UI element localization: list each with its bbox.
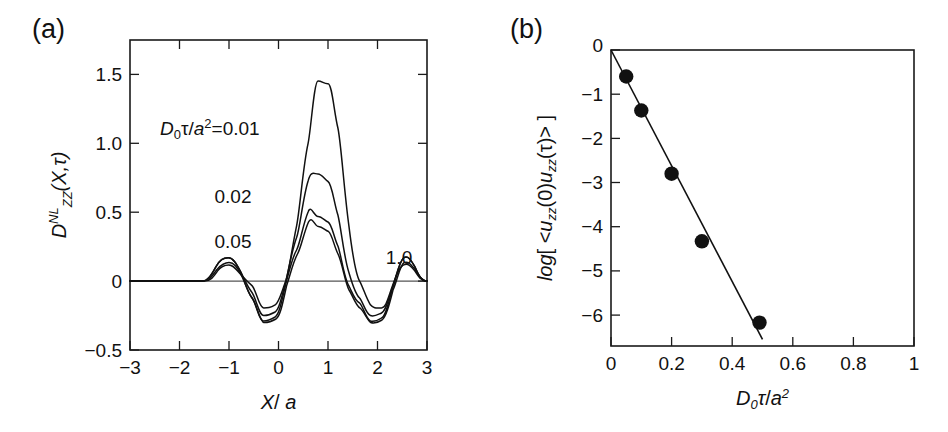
panel-a-xticklabel-1: −2	[169, 357, 191, 378]
panel-b: (b)	[474, 0, 948, 432]
panel-a-yticklabel-0: −0.5	[84, 340, 122, 361]
panel-a-xticklabel-0: −3	[119, 357, 141, 378]
panel-a-xticklabel-6: 3	[422, 357, 433, 378]
panel-b-xticklabel-5: 1	[909, 353, 920, 374]
panel-b-yaxis-title: log[ <uzz(0)uzz(τ)> ]	[534, 115, 559, 281]
panel-a-legend-0_01: D0τ/a2=0.01	[160, 116, 260, 142]
panel-a-xticklabel-2: −1	[218, 357, 240, 378]
panel-a-xticks	[130, 341, 427, 350]
panel-b-yticklabel-5: −5	[581, 260, 603, 281]
data-point	[634, 103, 648, 117]
panel-b-xticklabel-4: 0.8	[840, 353, 866, 374]
panel-b-label: (b)	[510, 14, 543, 45]
panel-a-yticks-right	[418, 74, 427, 281]
panel-a-yticklabel-2: 0.5	[96, 202, 122, 223]
panel-b-yticklabel-2: −2	[581, 128, 603, 149]
panel-b-yticklabel-1: −1	[581, 84, 603, 105]
panel-a-frame	[130, 40, 427, 350]
panel-a-curve-0_01	[130, 81, 427, 308]
panel-a-yticklabel-3: 1.0	[96, 133, 122, 154]
data-point	[752, 315, 766, 329]
panel-a-yticklabel-1: 0	[111, 271, 122, 292]
panel-a-yticks	[130, 74, 139, 350]
panel-a-xticklabel-3: 0	[273, 357, 284, 378]
panel-a-yticklabel-4: 1.5	[96, 64, 122, 85]
panel-b-yticklabel-4: −4	[581, 216, 603, 237]
panel-b-xticklabel-2: 0.4	[719, 353, 746, 374]
panel-b-frame	[611, 50, 914, 346]
panel-b-plot: 0 0.2 0.4 0.6 0.8 1 0 −1 −2 −3 −4 −5 −6	[474, 0, 948, 432]
panel-a-xaxis-title: X/ a	[260, 391, 297, 413]
panel-a-curves	[130, 81, 427, 323]
data-point	[619, 69, 633, 83]
panel-a-curve-0_05	[130, 209, 427, 321]
panel-a-xticks-top	[180, 40, 378, 49]
panel-a: (a)	[0, 0, 474, 432]
panel-a-legend-0_05: 0.05	[215, 231, 252, 252]
panel-b-yticks	[611, 50, 620, 315]
panel-a-curve-0_02	[130, 173, 427, 316]
panel-b-xticklabel-0: 0	[606, 353, 617, 374]
panel-b-yticklabel-0: 0	[592, 35, 603, 56]
panel-a-xticklabel-5: 2	[372, 357, 383, 378]
panel-a-legend-0_02: 0.02	[215, 186, 252, 207]
panel-b-xticklabel-1: 0.2	[658, 353, 684, 374]
panel-b-xaxis-title: D0τ/a2	[736, 386, 790, 412]
data-point	[695, 234, 709, 248]
panel-b-datapoints	[619, 69, 767, 330]
panel-a-plot: −3 −2 −1 0 1 2 3 −0.5 0 0.5 1.0 1.5	[0, 0, 474, 432]
data-point	[664, 167, 678, 181]
figure-container: (a)	[0, 0, 948, 432]
panel-a-xticklabel-4: 1	[323, 357, 334, 378]
panel-a-label: (a)	[32, 14, 65, 45]
panel-b-yticklabel-6: −6	[581, 305, 603, 326]
panel-b-yticklabel-3: −3	[581, 172, 603, 193]
panel-b-fit-line	[611, 50, 763, 339]
panel-a-legend-1_0: 1.0	[386, 247, 412, 268]
panel-b-xticklabel-3: 0.6	[780, 353, 806, 374]
panel-a-yaxis-title: DNLZZ(X,τ)	[46, 152, 75, 239]
